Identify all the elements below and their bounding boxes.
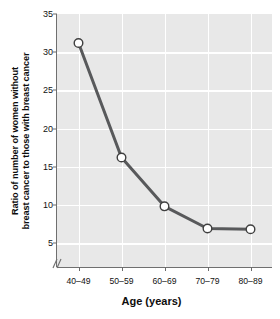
- y-tick-label: 30: [35, 47, 53, 57]
- data-point-marker: [203, 224, 212, 233]
- x-tick-mark: [165, 267, 166, 271]
- y-tick-label: 5: [35, 238, 53, 248]
- y-tick-mark: [53, 128, 57, 129]
- data-series-line: [57, 14, 272, 267]
- x-axis-label: Age (years): [0, 295, 279, 307]
- x-tick-mark: [208, 267, 209, 271]
- y-tick-mark: [53, 14, 57, 15]
- data-point-marker: [74, 39, 83, 48]
- y-tick-label: 15: [35, 162, 53, 172]
- x-tick-mark: [122, 267, 123, 271]
- y-axis-label-line-1: Ratio of number of women without: [10, 67, 20, 215]
- y-axis-label: Ratio of number of women without breast …: [6, 14, 34, 267]
- x-tick-mark: [251, 267, 252, 271]
- y-tick-mark: [53, 166, 57, 167]
- y-tick-mark: [53, 243, 57, 244]
- y-tick-mark: [53, 90, 57, 91]
- y-tick-mark: [53, 52, 57, 53]
- y-tick-label: 20: [35, 124, 53, 134]
- data-point-marker: [117, 153, 126, 162]
- x-tick-mark: [79, 267, 80, 271]
- series-line: [79, 43, 251, 229]
- y-axis-tick-labels: 5101520253035: [34, 0, 53, 319]
- data-point-marker: [160, 202, 169, 211]
- y-tick-label: 10: [35, 200, 53, 210]
- y-axis-label-line-2: breast cancer to those with breast cance…: [21, 52, 31, 229]
- y-tick-label: 25: [35, 85, 53, 95]
- y-tick-mark: [53, 204, 57, 205]
- x-tick-label: 80–89: [221, 276, 280, 286]
- y-tick-label: 35: [35, 9, 53, 19]
- chart-figure: Ratio of number of women without breast …: [0, 0, 279, 319]
- data-point-marker: [246, 225, 255, 234]
